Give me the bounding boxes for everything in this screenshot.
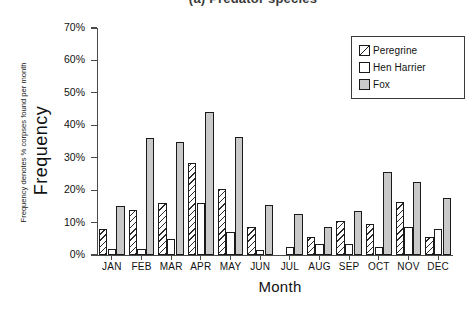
x-tick xyxy=(230,255,231,260)
bar-peregrine xyxy=(396,202,404,256)
y-tick xyxy=(91,60,97,61)
bar-peregrine xyxy=(188,163,196,255)
x-tick xyxy=(111,255,112,260)
bar-hen-harrier xyxy=(345,244,353,255)
bar-fox xyxy=(176,142,184,256)
bar-fox xyxy=(413,182,421,255)
bar-peregrine xyxy=(99,229,107,255)
x-tick xyxy=(378,255,379,260)
bar-hen-harrier xyxy=(404,227,412,255)
legend-swatch-icon xyxy=(359,62,370,73)
bar-fox xyxy=(443,198,451,255)
bar-peregrine xyxy=(307,237,315,255)
legend-item: Hen Harrier xyxy=(359,61,426,74)
bar-hen-harrier xyxy=(286,247,294,255)
legend-item: Peregrine xyxy=(359,44,417,57)
y-tick xyxy=(91,157,97,158)
x-tick xyxy=(260,255,261,260)
y-tick-label: 50% xyxy=(45,86,85,98)
legend-swatch-icon xyxy=(359,79,370,90)
y-tick xyxy=(91,222,97,223)
y-tick-label: 10% xyxy=(45,216,85,228)
y-tick-label: 60% xyxy=(45,53,85,65)
bar-peregrine xyxy=(158,203,166,255)
bar-fox xyxy=(235,137,243,255)
predator-species-bar-chart: (a) Predator species Frequency denotes %… xyxy=(0,0,475,310)
y-tick xyxy=(91,125,97,126)
x-tick xyxy=(408,255,409,260)
bar-hen-harrier xyxy=(226,232,234,255)
y-tick xyxy=(91,92,97,93)
chart-legend: PeregrineHen HarrierFox xyxy=(351,36,465,99)
bar-fox xyxy=(265,205,273,255)
bar-hen-harrier xyxy=(108,249,116,255)
bar-fox xyxy=(146,138,154,255)
bar-fox xyxy=(205,112,213,255)
bar-peregrine xyxy=(425,237,433,255)
y-tick xyxy=(91,27,97,28)
y-tick-label: 30% xyxy=(45,151,85,163)
x-tick-label: DEC xyxy=(418,261,458,272)
x-tick xyxy=(438,255,439,260)
bar-fox xyxy=(354,211,362,255)
bar-peregrine xyxy=(247,227,255,255)
x-axis-line xyxy=(97,255,453,256)
bar-hen-harrier xyxy=(197,203,205,255)
legend-item: Fox xyxy=(359,78,390,91)
bar-peregrine xyxy=(129,210,137,255)
bar-peregrine xyxy=(218,189,226,255)
x-tick xyxy=(319,255,320,260)
bar-hen-harrier xyxy=(167,239,175,255)
y-tick-label: 40% xyxy=(45,118,85,130)
x-tick xyxy=(200,255,201,260)
legend-swatch-icon xyxy=(359,45,370,56)
bar-fox xyxy=(294,214,302,255)
legend-label: Peregrine xyxy=(373,45,417,56)
bar-peregrine xyxy=(366,224,374,255)
y-tick-label: 0% xyxy=(45,248,85,260)
x-axis-label: Month xyxy=(95,278,465,295)
y-tick-label: 70% xyxy=(45,21,85,33)
bar-hen-harrier xyxy=(375,247,383,255)
bar-hen-harrier xyxy=(256,250,264,255)
y-tick xyxy=(91,254,97,255)
legend-label: Fox xyxy=(373,79,390,90)
bar-peregrine xyxy=(336,221,344,255)
bar-hen-harrier xyxy=(434,229,442,255)
y-tick xyxy=(91,190,97,191)
y-axis-line xyxy=(97,28,98,255)
bar-hen-harrier xyxy=(315,244,323,255)
bar-hen-harrier xyxy=(137,249,145,255)
figure-caption: (a) Predator species xyxy=(128,0,378,7)
legend-label: Hen Harrier xyxy=(373,62,426,73)
bar-fox xyxy=(116,206,124,255)
x-tick xyxy=(289,255,290,260)
x-tick xyxy=(171,255,172,260)
x-tick xyxy=(141,255,142,260)
bar-fox xyxy=(383,172,391,255)
bar-fox xyxy=(324,227,332,255)
x-tick xyxy=(349,255,350,260)
y-axis-note: Frequency denotes % corpses found per mo… xyxy=(19,33,28,253)
y-tick-label: 20% xyxy=(45,183,85,195)
